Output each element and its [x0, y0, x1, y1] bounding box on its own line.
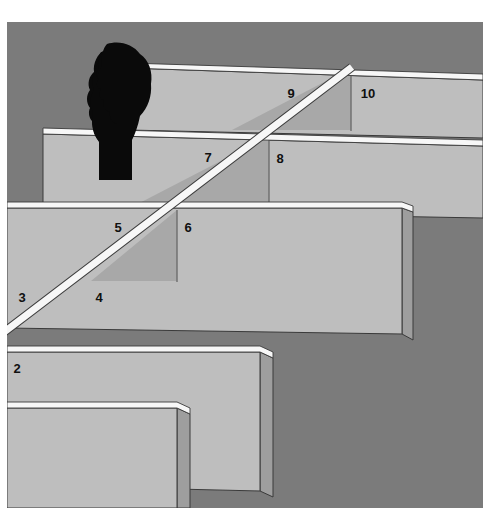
region-label-5: 5: [114, 220, 121, 235]
region-label-10: 10: [361, 86, 375, 101]
maze-vector: 2 3 4 5 6 7 8 9 10: [7, 22, 483, 508]
region-label-9: 9: [287, 86, 294, 101]
wall-third-face: [7, 208, 402, 334]
region-label-3: 3: [18, 290, 25, 305]
wall-bottom-edge: [177, 408, 190, 508]
region-label-4: 4: [95, 290, 103, 305]
maze-illustration: 2 3 4 5 6 7 8 9 10: [7, 22, 483, 508]
wall-third-edge: [402, 208, 413, 340]
region-label-8: 8: [276, 151, 283, 166]
illustration-canvas: 2 3 4 5 6 7 8 9 10: [0, 0, 483, 528]
region-label-6: 6: [184, 220, 191, 235]
wall-bottom-front: [7, 402, 190, 508]
wall-third: [7, 202, 413, 340]
wall-fifth-edge: [260, 352, 273, 497]
wall-bottom-face: [7, 408, 177, 508]
region-label-2: 2: [13, 361, 20, 376]
region-label-7: 7: [204, 150, 211, 165]
